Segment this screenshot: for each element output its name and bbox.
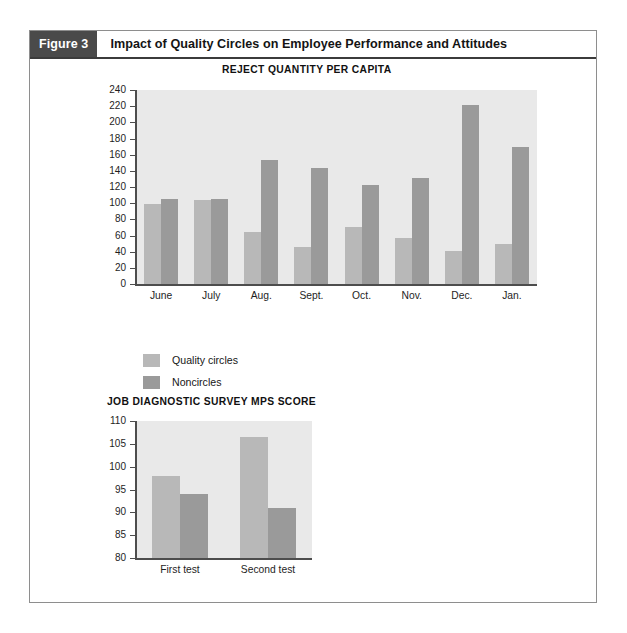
y-axis-tick	[130, 171, 136, 172]
y-axis-tick	[130, 139, 136, 140]
bar	[244, 232, 261, 284]
x-axis-tick-label: Second test	[224, 564, 312, 575]
bar	[445, 251, 462, 284]
chart-legend: Quality circles Noncircles	[143, 349, 238, 393]
x-axis-tick-label: Dec.	[437, 290, 487, 301]
y-axis-tick-label: 120	[102, 181, 126, 192]
y-axis-tick	[130, 512, 136, 513]
y-axis-tick	[130, 421, 136, 422]
x-axis-line	[135, 558, 312, 560]
y-axis-tick	[130, 106, 136, 107]
y-axis-tick	[130, 284, 136, 285]
bar	[412, 178, 429, 284]
y-axis-tick	[130, 187, 136, 188]
y-axis-tick	[130, 122, 136, 123]
y-axis-tick-label: 90	[102, 506, 126, 517]
y-axis-tick-label: 60	[102, 230, 126, 241]
legend-label-noncircles: Noncircles	[172, 376, 221, 388]
bar	[395, 238, 412, 284]
bar	[345, 227, 362, 284]
y-axis-tick	[130, 558, 136, 559]
y-axis-tick-label: 100	[102, 461, 126, 472]
y-axis-tick	[130, 203, 136, 204]
bar	[180, 494, 208, 558]
y-axis-tick-label: 180	[102, 133, 126, 144]
y-axis-tick	[130, 155, 136, 156]
bar	[194, 200, 211, 284]
x-axis-tick-label: Oct.	[337, 290, 387, 301]
y-axis-tick	[130, 490, 136, 491]
bar	[240, 437, 268, 558]
y-axis-tick	[130, 219, 136, 220]
x-axis-tick-label: Aug.	[236, 290, 286, 301]
legend-swatch-quality-circles	[143, 354, 160, 367]
chart-title-top: REJECT QUANTITY PER CAPITA	[222, 64, 391, 75]
y-axis-tick	[130, 252, 136, 253]
y-axis-tick	[130, 535, 136, 536]
y-axis-tick	[130, 268, 136, 269]
bar	[144, 204, 161, 284]
bar	[495, 244, 512, 284]
legend-item-quality-circles: Quality circles	[143, 349, 238, 371]
bar	[462, 105, 479, 284]
y-axis-tick-label: 200	[102, 116, 126, 127]
y-axis-tick-label: 80	[102, 213, 126, 224]
bar	[311, 168, 328, 284]
y-axis-tick-label: 20	[102, 262, 126, 273]
bar	[152, 476, 180, 558]
bar	[294, 247, 311, 284]
y-axis-tick-label: 160	[102, 149, 126, 160]
figure-container: Figure 3 Impact of Quality Circles on Em…	[29, 30, 597, 603]
y-axis-tick-label: 40	[102, 246, 126, 257]
y-axis-tick-label: 95	[102, 484, 126, 495]
figure-header: Figure 3 Impact of Quality Circles on Em…	[30, 31, 596, 59]
x-axis-line	[135, 284, 537, 286]
bar	[161, 199, 178, 284]
y-axis-tick	[130, 467, 136, 468]
bar	[211, 199, 228, 284]
x-axis-tick-label: First test	[136, 564, 224, 575]
bar	[268, 508, 296, 558]
y-axis-tick-label: 85	[102, 529, 126, 540]
y-axis-tick-label: 80	[102, 552, 126, 563]
x-axis-tick-label: Nov.	[387, 290, 437, 301]
x-axis-tick-label: June	[136, 290, 186, 301]
x-axis-tick-label: July	[186, 290, 236, 301]
y-axis-tick-label: 220	[102, 100, 126, 111]
x-axis-tick-label: Jan.	[487, 290, 537, 301]
legend-item-noncircles: Noncircles	[143, 371, 238, 393]
figure-number-tag: Figure 3	[30, 31, 97, 57]
y-axis-tick	[130, 90, 136, 91]
x-axis-tick-label: Sept.	[286, 290, 336, 301]
y-axis-tick-label: 105	[102, 438, 126, 449]
y-axis-tick-label: 100	[102, 197, 126, 208]
y-axis-tick	[130, 444, 136, 445]
bar	[512, 147, 529, 284]
y-axis-tick-label: 140	[102, 165, 126, 176]
y-axis-tick-label: 240	[102, 84, 126, 95]
legend-label-quality-circles: Quality circles	[172, 354, 238, 366]
y-axis-tick	[130, 236, 136, 237]
bar	[362, 185, 379, 284]
y-axis-tick-label: 110	[102, 415, 126, 426]
chart-title-bottom: JOB DIAGNOSTIC SURVEY MPS SCORE	[107, 396, 316, 407]
bar	[261, 160, 278, 284]
y-axis-tick-label: 0	[102, 278, 126, 289]
figure-title: Impact of Quality Circles on Employee Pe…	[97, 31, 596, 57]
legend-swatch-noncircles	[143, 376, 160, 389]
